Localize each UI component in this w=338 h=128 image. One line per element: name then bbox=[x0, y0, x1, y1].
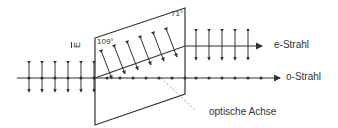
polarization-dot bbox=[53, 76, 56, 79]
polarization-dot bbox=[92, 76, 95, 79]
o-polarization-dot bbox=[144, 76, 147, 79]
o-polarization-dot bbox=[157, 76, 160, 79]
birefringence-diagram: E 109° 71° e-Strahl o-Strahl optische Ac… bbox=[0, 0, 338, 128]
o-polarization-dot bbox=[194, 76, 197, 79]
angle-right-label: 71° bbox=[171, 9, 183, 18]
o-polarization-dot bbox=[118, 76, 121, 79]
optical-axis-line bbox=[161, 78, 196, 111]
o-polarization-dot bbox=[207, 76, 210, 79]
o-polarization-dot bbox=[220, 76, 223, 79]
o-polarization-dot bbox=[105, 76, 108, 79]
angle-left-label: 109° bbox=[97, 37, 114, 46]
crystal-outline bbox=[95, 8, 185, 125]
o-polarization-dot bbox=[131, 76, 134, 79]
o-polarization-dot bbox=[183, 76, 186, 79]
o-polarization-dot bbox=[259, 76, 262, 79]
o-beam-label: o-Strahl bbox=[286, 71, 321, 82]
o-polarization-dot bbox=[233, 76, 236, 79]
optical-axis-label: optische Achse bbox=[209, 106, 276, 117]
e-beam-label: e-Strahl bbox=[274, 39, 309, 50]
diagram-canvas bbox=[0, 0, 338, 128]
polarization-dot bbox=[79, 76, 82, 79]
polarization-dot bbox=[27, 76, 30, 79]
efield-label: E bbox=[72, 42, 82, 48]
o-polarization-dot bbox=[170, 76, 173, 79]
polarization-dot bbox=[40, 76, 43, 79]
e-polarization-arrow bbox=[167, 31, 177, 57]
o-polarization-dot bbox=[246, 76, 249, 79]
polarization-dot bbox=[66, 76, 69, 79]
